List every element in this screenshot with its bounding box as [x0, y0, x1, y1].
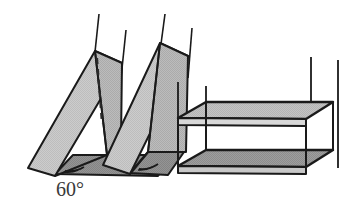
figure-canvas: 60°: [0, 0, 362, 210]
shelf-lower-edge: [178, 166, 306, 174]
shelf-upper-surface: [178, 102, 333, 119]
angle-label-60: 60°: [56, 178, 84, 200]
shelf-upper-edge: [178, 118, 306, 126]
geometry-diagram: 60°: [0, 0, 362, 210]
shelf-lower-surface: [178, 150, 333, 167]
